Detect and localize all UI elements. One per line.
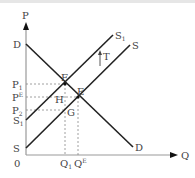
point-f-label: F	[61, 72, 68, 83]
price-p1-label: P1	[12, 79, 23, 91]
price-p2-label: P2	[12, 105, 23, 117]
supply-s1-end-label: S1	[115, 30, 126, 42]
supply-end-label: S	[132, 40, 139, 51]
quantity-q1-label: Q1	[60, 158, 72, 170]
origin-label: 0	[14, 158, 20, 169]
demand-start-label: D	[13, 39, 21, 50]
tax-arrow-head-icon	[98, 50, 102, 55]
x-axis-arrow-icon	[170, 152, 178, 158]
tax-label: T	[103, 51, 110, 62]
y-axis-arrow-icon	[23, 22, 29, 30]
point-g-label: G	[67, 107, 75, 118]
y-axis-label: P	[22, 10, 29, 21]
demand-end-label: D	[135, 142, 143, 153]
quantity-qe-label: QE	[74, 157, 87, 169]
x-axis-label: Q	[181, 150, 189, 161]
point-e-label: E	[77, 86, 84, 97]
supply-start-label: S	[13, 143, 20, 154]
price-pe-label: PE	[12, 91, 23, 103]
supply-demand-diagram: P Q 0 D D S S S1 S1 F E H G T P1 PE P2 Q…	[0, 0, 195, 178]
point-h-label: H	[55, 94, 64, 105]
